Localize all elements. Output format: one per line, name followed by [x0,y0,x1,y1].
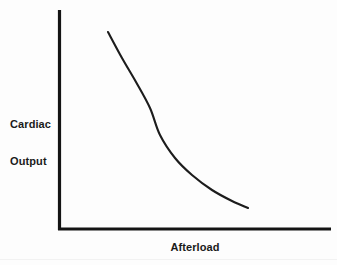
scan-artifact-line [0,259,337,260]
x-axis-label: Afterload [59,241,331,253]
y-axis-label-line-2: Output [10,155,51,167]
cardiac-output-curve [108,32,248,208]
chart-figure: Cardiac Output Afterload [0,0,337,265]
y-axis-label-line-1: Cardiac [10,118,51,130]
y-axis-label: Cardiac Output [10,93,51,192]
